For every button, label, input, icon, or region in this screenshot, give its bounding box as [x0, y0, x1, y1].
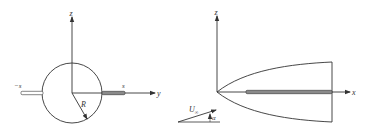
y-axis-label: y: [156, 89, 161, 98]
span-label-right: s: [122, 82, 125, 90]
wing-right: [102, 91, 125, 94]
z-axis-label-right: z: [214, 8, 219, 17]
wing-strip: [246, 90, 332, 93]
planform-figure: z x U∞ α: [178, 8, 356, 122]
cross-section-figure: z y s −s R: [14, 9, 161, 123]
diagram-canvas: z y s −s R z x U∞ α: [0, 0, 373, 133]
span-label-left: −s: [14, 82, 22, 90]
angle-label: α: [212, 114, 216, 122]
x-axis-label: x: [351, 88, 356, 97]
wing-left: [21, 91, 43, 94]
z-axis-label-left: z: [69, 9, 74, 18]
freestream-label: U∞: [189, 105, 199, 115]
radius-label: R: [80, 100, 86, 109]
